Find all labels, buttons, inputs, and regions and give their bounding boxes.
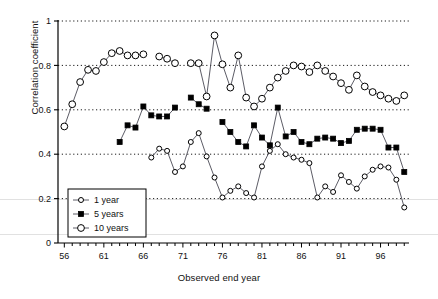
data-point [394, 177, 399, 182]
series-5-years [117, 95, 407, 174]
series-segment [238, 55, 246, 97]
data-point [156, 53, 163, 60]
legend-marker [79, 198, 84, 203]
data-point [157, 114, 162, 119]
data-point [378, 127, 383, 132]
data-point [220, 120, 225, 125]
data-point [369, 89, 376, 96]
data-point [244, 144, 249, 149]
data-point [236, 184, 241, 189]
data-point [307, 161, 312, 166]
y-tick-label: 0.6 [38, 105, 51, 115]
data-point [85, 66, 92, 73]
data-point [339, 173, 344, 178]
data-point [252, 195, 257, 200]
data-point [219, 61, 226, 68]
data-point [204, 154, 209, 159]
data-point [69, 101, 76, 108]
data-point [259, 95, 266, 102]
data-point [243, 94, 250, 101]
x-tick-label: 61 [99, 251, 109, 261]
data-point [259, 135, 264, 140]
gridlines [58, 21, 409, 199]
x-tick-label: 76 [217, 251, 227, 261]
data-point [165, 148, 170, 153]
data-point [377, 92, 384, 99]
data-point [339, 141, 344, 146]
series-segment [230, 55, 238, 87]
series-segment [199, 63, 207, 96]
y-tick-label: 0.2 [38, 194, 51, 204]
data-point [394, 145, 399, 150]
y-tick-label: 1 [46, 16, 51, 26]
y-tick-label: 0 [46, 238, 51, 248]
y-tick-label: 0.4 [38, 149, 51, 159]
data-point [211, 32, 218, 39]
series-segment [396, 148, 404, 172]
x-tick-label: 81 [257, 251, 267, 261]
data-point [100, 59, 107, 66]
data-point [267, 148, 272, 153]
data-point [61, 123, 68, 130]
series-segment [207, 35, 215, 96]
data-point [164, 55, 171, 62]
series-segment [246, 125, 254, 146]
data-point [346, 138, 351, 143]
y-axis-title: Correlation coefficient [29, 0, 40, 148]
data-point [274, 74, 281, 81]
data-point [203, 93, 210, 100]
data-point [141, 104, 146, 109]
figure-container: 00.20.40.60.81566166717681869196 1 year5… [0, 0, 438, 299]
data-point [353, 72, 360, 79]
data-point [346, 179, 351, 184]
data-point [331, 189, 336, 194]
data-point [149, 113, 154, 118]
data-point [180, 164, 185, 169]
data-point [393, 98, 400, 105]
data-point [322, 68, 329, 75]
data-point [362, 126, 367, 131]
data-point [252, 123, 257, 128]
series-1-year [149, 131, 407, 210]
legend-marker [79, 212, 84, 217]
data-point [188, 139, 193, 144]
data-point [346, 86, 353, 93]
data-point [299, 157, 304, 162]
data-point [228, 130, 233, 135]
data-point [188, 95, 193, 100]
data-point [362, 174, 367, 179]
legend-label: 1 year [94, 195, 119, 205]
data-point [331, 136, 336, 141]
x-tick-label: 56 [59, 251, 69, 261]
data-point [235, 52, 242, 59]
data-point [283, 152, 288, 157]
series-segment [215, 35, 223, 64]
data-point [212, 175, 217, 180]
series-segment [215, 178, 223, 198]
data-point [386, 165, 391, 170]
legend-label: 10 years [94, 223, 129, 233]
data-point [386, 145, 391, 150]
data-point [315, 195, 320, 200]
legend-marker [78, 225, 85, 232]
data-point [251, 103, 258, 110]
series-segment [167, 151, 175, 172]
data-point [220, 195, 225, 200]
data-point [77, 79, 84, 86]
legend-item-10-years[interactable]: 10 years [73, 223, 129, 233]
data-point [378, 164, 383, 169]
data-point [204, 106, 209, 111]
data-point [323, 184, 328, 189]
data-point [133, 125, 138, 130]
data-point [267, 143, 272, 148]
data-point [196, 131, 201, 136]
chart-legend[interactable]: 1 year5 years10 years [68, 189, 146, 237]
data-point [165, 114, 170, 119]
data-point [93, 68, 100, 75]
data-point [402, 205, 407, 210]
data-point [149, 155, 154, 160]
x-tick-label: 86 [296, 251, 306, 261]
data-point [259, 164, 264, 169]
data-point [227, 84, 234, 91]
data-point [140, 51, 147, 58]
